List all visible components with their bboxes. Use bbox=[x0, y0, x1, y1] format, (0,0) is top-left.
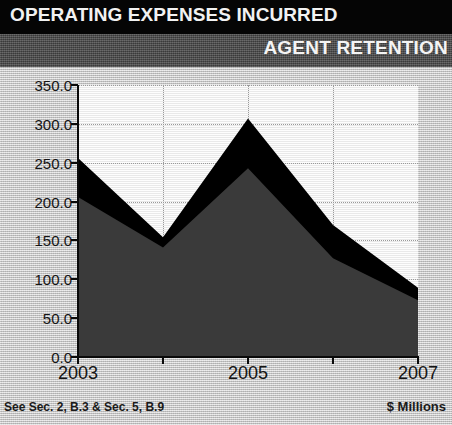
y-axis-tick-label: 300.0 bbox=[34, 115, 72, 132]
y-axis-tick bbox=[71, 162, 78, 164]
y-axis-tick-label: 150.0 bbox=[34, 232, 72, 249]
footer-units-right: $ Millions bbox=[387, 399, 446, 414]
y-axis-tick bbox=[71, 123, 78, 125]
x-axis-tick-label: 2003 bbox=[58, 363, 98, 384]
y-axis-tick-label: 250.0 bbox=[34, 154, 72, 171]
y-axis-tick bbox=[71, 239, 78, 241]
y-axis-tick-label: 50.0 bbox=[43, 310, 72, 327]
y-axis-labels: 0.050.0100.0150.0200.0250.0300.0350.0 bbox=[0, 85, 76, 357]
y-axis-tick bbox=[71, 317, 78, 319]
x-axis-tick-label: 2005 bbox=[228, 363, 268, 384]
chart-page: OPERATING EXPENSES INCURRED AGENT RETENT… bbox=[0, 0, 452, 425]
page-subtitle: AGENT RETENTION bbox=[263, 37, 448, 59]
area-series-group bbox=[78, 85, 418, 357]
footer-note-left: See Sec. 2, B.3 & Sec. 5, B.9 bbox=[4, 400, 164, 414]
y-axis-tick-label: 350.0 bbox=[34, 77, 72, 94]
x-axis-tick bbox=[162, 357, 164, 364]
title-bar: OPERATING EXPENSES INCURRED bbox=[0, 0, 452, 34]
x-axis-tick-label: 2007 bbox=[398, 363, 438, 384]
y-axis-tick bbox=[71, 278, 78, 280]
x-axis-tick bbox=[332, 357, 334, 364]
y-axis-tick-label: 200.0 bbox=[34, 193, 72, 210]
chart-plot-area bbox=[78, 85, 418, 357]
page-title: OPERATING EXPENSES INCURRED bbox=[10, 4, 338, 26]
subtitle-bar: AGENT RETENTION bbox=[0, 34, 452, 67]
y-axis-tick-label: 100.0 bbox=[34, 271, 72, 288]
y-axis-tick bbox=[71, 201, 78, 203]
y-axis-tick bbox=[71, 84, 78, 86]
